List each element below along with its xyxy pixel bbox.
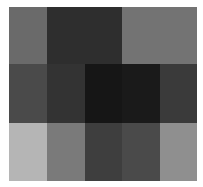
heatmap-cell [122, 7, 160, 64]
heatmap-cell [85, 7, 122, 64]
heatmap-cell [160, 64, 197, 123]
heatmap-cell [160, 123, 197, 181]
heatmap-cell [122, 123, 160, 181]
heatmap-cell [85, 123, 122, 181]
heatmap-cell [9, 64, 47, 123]
heatmap-cell [9, 123, 47, 181]
heatmap-cell [85, 64, 122, 123]
heatmap-cell [9, 7, 47, 64]
heatmap-grid [9, 7, 197, 181]
heatmap-cell [47, 123, 85, 181]
heatmap-cell [122, 64, 160, 123]
heatmap-cell [47, 64, 85, 123]
heatmap-cell [47, 7, 85, 64]
heatmap-cell [160, 7, 197, 64]
